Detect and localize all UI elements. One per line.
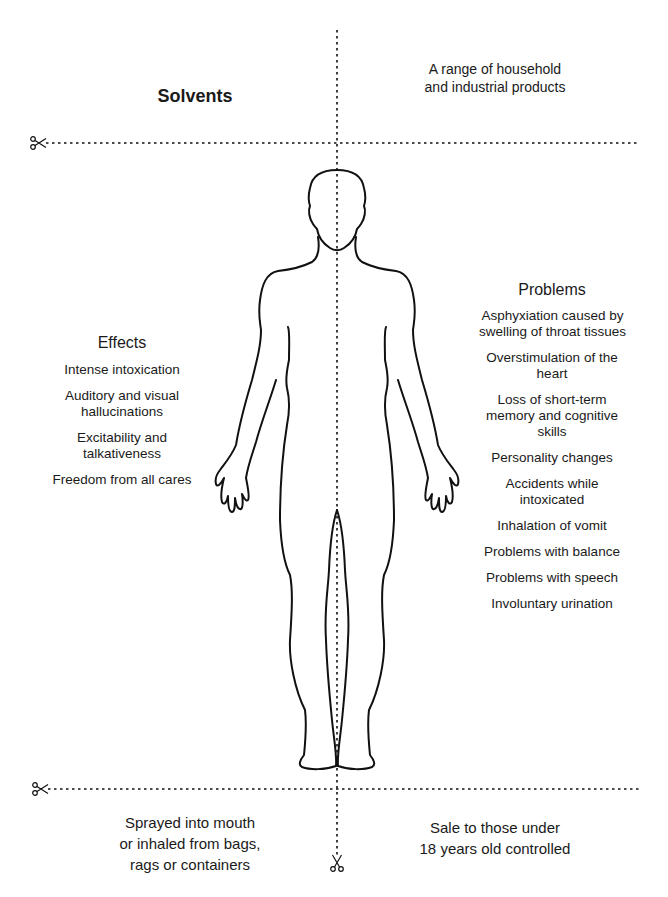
legal-line: 18 years old controlled <box>380 838 610 859</box>
legal-status: Sale to those under 18 years old control… <box>380 817 610 859</box>
scissors-icon <box>31 137 46 150</box>
legal-line: Sale to those under <box>380 817 610 838</box>
scissors-icon <box>33 783 48 796</box>
effects-heading: Effects <box>62 334 182 352</box>
problems-item: Overstimulation of the heart <box>477 350 627 382</box>
effects-item: Auditory and visual hallucinations <box>47 388 197 420</box>
problems-list: Asphyxiation caused by swelling of throa… <box>462 308 642 622</box>
problems-heading: Problems <box>492 281 612 299</box>
effects-item: Excitability and talkativeness <box>62 430 182 462</box>
method-line: rags or containers <box>70 854 310 875</box>
problems-item: Inhalation of vomit <box>462 518 642 534</box>
method-line: or inhaled from bags, <box>70 833 310 854</box>
page-title: Solvents <box>95 86 295 107</box>
method-of-use: Sprayed into mouth or inhaled from bags,… <box>70 812 310 875</box>
problems-item: Asphyxiation caused by swelling of throa… <box>470 308 635 340</box>
problems-item: Loss of short-term memory and cognitive … <box>477 392 627 440</box>
effects-item: Intense intoxication <box>22 362 222 378</box>
problems-item: Problems with speech <box>462 570 642 586</box>
source-description: A range of household and industrial prod… <box>370 60 620 96</box>
source-line: A range of household <box>370 60 620 78</box>
problems-item: Involuntary urination <box>462 596 642 612</box>
problems-item: Problems with balance <box>462 544 642 560</box>
effects-list: Intense intoxication Auditory and visual… <box>22 362 222 498</box>
method-line: Sprayed into mouth <box>70 812 310 833</box>
source-line: and industrial products <box>370 78 620 96</box>
problems-item: Accidents while intoxicated <box>497 476 607 508</box>
effects-item: Freedom from all cares <box>22 472 222 488</box>
problems-item: Personality changes <box>462 450 642 466</box>
scissors-icon <box>331 855 344 871</box>
